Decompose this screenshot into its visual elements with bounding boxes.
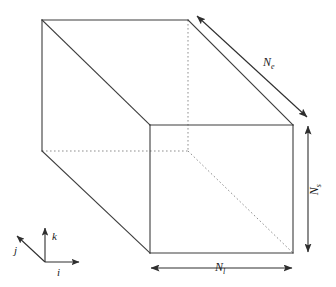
dimension-label-ns: Ns [308,184,323,195]
dimension-label-ne: Ne [263,56,275,71]
axis-label-i: i [57,267,60,278]
ne-symbol: N [263,55,271,69]
dimension-arrow-ne [197,16,307,117]
dimension-label-nl: Nl [215,261,225,276]
hidden-edge-depth [188,151,293,253]
axis-arrow-j [17,236,45,262]
box-hidden-edges [42,20,293,253]
ns-symbol: N [307,187,321,195]
edge-top-depth-right [188,20,293,125]
figure-container: Ne Ns Nl i j k [0,0,336,287]
ne-subscript: e [271,62,275,71]
diagram-canvas [0,0,336,287]
axis-label-j: j [14,245,17,256]
edge-top-depth-left [42,20,150,125]
ns-subscript: s [314,184,323,187]
nl-symbol: N [215,260,223,274]
edge-bottom-depth-left [42,151,150,253]
axis-label-k: k [52,231,57,242]
nl-subscript: l [223,267,225,276]
box-visible-edges [42,20,293,253]
axis-triad [17,228,79,262]
